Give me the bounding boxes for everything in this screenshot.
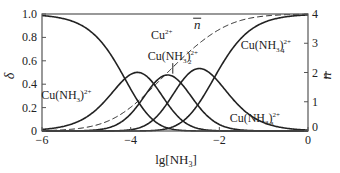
y-tick-label-right: 1 — [312, 95, 318, 109]
series-label: Cu2+ — [151, 28, 173, 42]
series-label: n — [193, 17, 201, 32]
x-tick-label: −2 — [213, 133, 226, 147]
y-tick-label-left: 1.0 — [22, 7, 37, 21]
series-labels: Cu2+Cu(NH3)2+Cu(NH3)2+2Cu(NH3)2+3Cu(NH3)… — [41, 17, 291, 127]
y-tick-label-left: 0.2 — [22, 101, 37, 115]
y-tick-label-left: 0 — [31, 124, 37, 138]
x-axis-label: lg[NH3] — [155, 152, 197, 169]
y-tick-label-left: 0.4 — [22, 77, 37, 91]
series-label: Cu(NH3)2+3 — [230, 111, 280, 128]
svg-text:Cu2+: Cu2+ — [151, 28, 173, 42]
svg-text:Cu(NH3)2+3: Cu(NH3)2+3 — [230, 111, 280, 128]
y-tick-label-right: 0 — [312, 120, 318, 134]
y-tick-label-left: 0.6 — [22, 54, 37, 68]
series-label: Cu(NH3)2+4 — [241, 38, 291, 55]
y-tick-label-right: 3 — [312, 36, 318, 50]
x-tick-label: −4 — [124, 133, 137, 147]
x-tick-label: −6 — [36, 133, 49, 147]
chart-canvas: −6−4−2000.20.40.60.81.001234 Cu2+Cu(NH3)… — [0, 0, 340, 173]
svg-text:n: n — [194, 17, 201, 32]
svg-text:Cu(NH3)2+4: Cu(NH3)2+4 — [241, 38, 291, 55]
svg-text:Cu(NH3)2+: Cu(NH3)2+ — [41, 88, 91, 104]
y-axis-left-label: δ — [2, 72, 17, 79]
y-tick-label-left: 0.8 — [22, 30, 37, 44]
series-label: Cu(NH3)2+2 — [148, 49, 198, 66]
y-axis-right-label: n — [319, 71, 334, 80]
y-tick-label-right: 2 — [312, 66, 318, 80]
svg-text:Cu(NH3)2+2: Cu(NH3)2+2 — [148, 49, 198, 66]
x-tick-label: 0 — [305, 133, 311, 147]
distribution-chart: −6−4−2000.20.40.60.81.001234 Cu2+Cu(NH3)… — [0, 0, 340, 173]
y-tick-label-right: 4 — [312, 7, 318, 21]
series-label: Cu(NH3)2+ — [41, 88, 91, 104]
